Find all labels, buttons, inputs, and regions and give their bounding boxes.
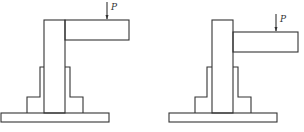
right-ground-hatched [169, 113, 277, 122]
left-load-label: P [110, 2, 118, 12]
left-figure: P [1, 2, 129, 122]
right-base-step-right [233, 67, 251, 113]
right-load-arrow-icon [275, 14, 278, 32]
left-base-step-left [27, 67, 44, 113]
left-load-arrow-icon [106, 2, 109, 20]
diagram-canvas: P P [0, 0, 304, 132]
right-cantilever-beam [233, 32, 298, 52]
right-figure: P [169, 14, 298, 122]
left-column [44, 20, 65, 113]
right-base-step-left [195, 67, 212, 113]
right-load-label: P [279, 14, 287, 24]
right-column [212, 20, 233, 113]
left-base-step-right [65, 67, 83, 113]
left-cantilever-beam [65, 20, 129, 40]
left-ground-hatched [1, 113, 109, 122]
